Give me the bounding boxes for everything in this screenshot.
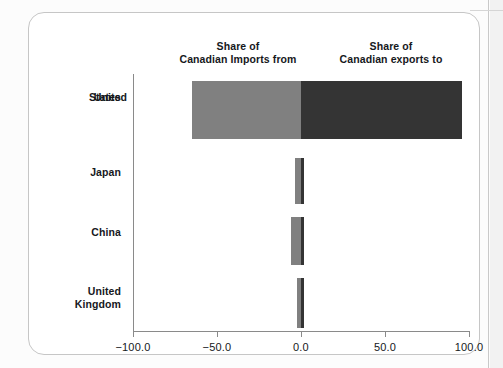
y-axis-spine xyxy=(133,74,134,332)
legend-imports-line2: Canadian Imports from xyxy=(164,53,312,66)
x-axis-tick-3 xyxy=(385,331,386,337)
category-label-united-kingdom-line1: United xyxy=(29,285,121,298)
legend-exports-line1: Share of xyxy=(317,40,465,53)
y-axis-label-group-1: Japan xyxy=(29,166,127,179)
bar-exports-3 xyxy=(301,278,304,328)
x-axis-tick-label-1: −50.0 xyxy=(182,341,252,353)
y-axis-label-group-0: United States xyxy=(29,91,127,104)
y-axis-label-group-2: China xyxy=(29,226,127,239)
bar-exports-2 xyxy=(301,217,304,265)
bar-imports-0 xyxy=(192,81,301,139)
bar-exports-1 xyxy=(301,158,304,204)
x-axis-tick-label-4: 100.0 xyxy=(434,341,503,353)
page-root: Share of Canadian Imports from Share of … xyxy=(0,0,503,368)
x-axis-tick-label-0: −100.0 xyxy=(98,341,168,353)
bar-imports-2 xyxy=(291,217,301,265)
x-axis-tick-2 xyxy=(301,331,302,337)
category-label-united-kingdom-line2: Kingdom xyxy=(29,298,121,311)
bar-exports-0 xyxy=(301,81,462,139)
figure-card: Share of Canadian Imports from Share of … xyxy=(28,12,480,355)
category-label-united-states-line2: States xyxy=(29,91,121,104)
legend-exports-line2: Canadian exports to xyxy=(317,53,465,66)
y-axis-label-group-3: United Kingdom xyxy=(29,285,127,311)
category-label-japan: Japan xyxy=(29,166,121,179)
legend-imports-header: Share of Canadian Imports from xyxy=(164,40,312,66)
legend-imports-line1: Share of xyxy=(164,40,312,53)
x-axis-tick-label-2: 0.0 xyxy=(266,341,336,353)
x-axis-tick-1 xyxy=(217,331,218,337)
x-axis-tick-label-3: 50.0 xyxy=(350,341,420,353)
page-top-rule xyxy=(470,10,503,11)
legend-exports-header: Share of Canadian exports to xyxy=(317,40,465,66)
x-axis-tick-0 xyxy=(133,331,134,337)
category-label-china: China xyxy=(29,226,121,239)
page-margin-strip xyxy=(490,0,503,368)
x-axis-tick-4 xyxy=(469,331,470,337)
page-edge-line xyxy=(488,0,489,368)
